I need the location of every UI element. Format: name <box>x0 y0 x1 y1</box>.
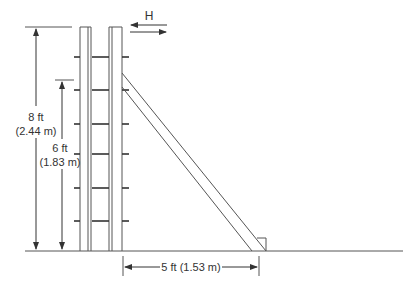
force-h-arrows <box>130 25 167 32</box>
dim-6ft-imperial: 6 ft <box>52 142 67 154</box>
ladder-diagram: H 8 ft (2.44 m) 6 ft (1.83 m) 5 ft (1.53… <box>0 0 419 291</box>
dim-6ft-metric: (1.83 m) <box>40 156 81 168</box>
dim-8ft-metric: (2.44 m) <box>16 125 57 137</box>
rungs <box>74 57 129 221</box>
dim-5ft-label: 5 ft (1.53 m) <box>161 261 220 273</box>
force-label: H <box>145 9 154 23</box>
dim-8ft-imperial: 8 ft <box>28 111 43 123</box>
left-rail <box>80 27 91 251</box>
diagonal-brace <box>122 73 266 251</box>
right-rail <box>109 27 122 251</box>
